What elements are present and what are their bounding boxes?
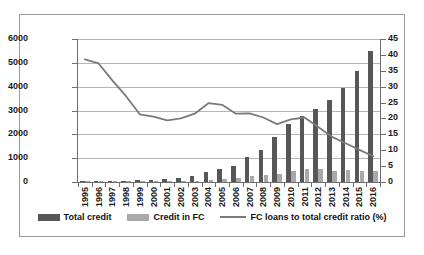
legend-label-total-credit: Total credit — [64, 212, 112, 222]
chart-frame: 0100020003000400050006000 05101520253035… — [19, 14, 405, 237]
y-axis-right-tick — [381, 118, 386, 119]
line-series-layer — [78, 39, 380, 182]
y-axis-left-label: 2000 — [0, 129, 28, 138]
y-axis-left-tick — [72, 39, 77, 40]
y-axis-left-label: 3000 — [0, 106, 28, 115]
y-axis-right-label: 35 — [388, 66, 412, 75]
y-axis-left-label: 6000 — [0, 34, 28, 43]
y-axis-left-tick — [72, 134, 77, 135]
y-axis-right-label: 5 — [388, 161, 412, 170]
x-axis-label: 2011 — [300, 187, 310, 207]
chart-legend: Total credit Credit in FC FC loans to to… — [19, 205, 405, 229]
fc-ratio-line — [85, 59, 373, 156]
x-axis-tick — [298, 183, 299, 187]
plot-area — [78, 39, 380, 182]
x-axis-tick — [339, 183, 340, 187]
legend-swatch-total-credit — [38, 214, 60, 221]
y-axis-right-line — [380, 39, 381, 183]
y-axis-left-tick — [72, 63, 77, 64]
y-axis-right-label: 40 — [388, 50, 412, 59]
y-axis-right-label: 0 — [388, 177, 412, 186]
chart-figure: 0100020003000400050006000 05101520253035… — [0, 0, 424, 255]
legend-item-fc-ratio: FC loans to total credit ratio (%) — [220, 212, 386, 222]
y-axis-left-label: 4000 — [0, 82, 28, 91]
y-axis-right-tick — [381, 134, 386, 135]
y-axis-left-label: 1000 — [0, 153, 28, 162]
y-axis-right-tick — [381, 87, 386, 88]
legend-swatch-credit-in-fc — [127, 214, 149, 221]
y-axis-right-tick — [381, 71, 386, 72]
y-axis-left-label: 5000 — [0, 58, 28, 67]
x-axis-tick — [174, 183, 175, 187]
x-axis-tick — [133, 183, 134, 187]
x-axis-tick — [243, 183, 244, 187]
y-axis-right-label: 25 — [388, 98, 412, 107]
y-axis-left-tick — [72, 111, 77, 112]
y-axis-right-label: 10 — [388, 145, 412, 154]
y-axis-left-label: 0 — [0, 177, 28, 186]
y-axis-right-tick — [381, 150, 386, 151]
y-axis-right-label: 30 — [388, 82, 412, 91]
legend-item-total-credit: Total credit — [38, 212, 112, 222]
x-axis-tick — [147, 183, 148, 187]
y-axis-left-tick — [72, 182, 77, 183]
y-axis-right-label: 45 — [388, 34, 412, 43]
x-axis-tick — [380, 183, 381, 187]
legend-label-credit-in-fc: Credit in FC — [153, 212, 204, 222]
x-axis-tick — [229, 183, 230, 187]
x-axis-tick — [78, 183, 79, 187]
y-axis-right-tick — [381, 182, 386, 183]
legend-swatch-fc-ratio — [220, 216, 246, 218]
x-axis-tick — [325, 183, 326, 187]
y-axis-left-tick — [72, 158, 77, 159]
y-axis-right-tick — [381, 103, 386, 104]
legend-label-fc-ratio: FC loans to total credit ratio (%) — [250, 212, 386, 222]
y-axis-right-label: 15 — [388, 129, 412, 138]
y-axis-right-label: 20 — [388, 113, 412, 122]
x-axis-tick — [92, 183, 93, 187]
y-axis-right-tick — [381, 55, 386, 56]
x-axis-tick — [284, 183, 285, 187]
y-axis-right-tick — [381, 166, 386, 167]
y-axis-left-tick — [72, 87, 77, 88]
y-axis-right-tick — [381, 39, 386, 40]
x-axis-tick — [188, 183, 189, 187]
legend-item-credit-in-fc: Credit in FC — [127, 212, 204, 222]
